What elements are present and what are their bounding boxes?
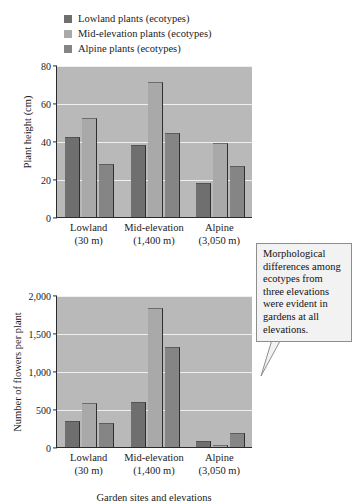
bar: [230, 166, 245, 217]
x-axis-group-elevation: (3,050 m): [187, 465, 252, 478]
y-axis-label-bottom: Number of flowers per plant: [12, 292, 23, 452]
y-axis-tick-label: 40: [41, 137, 51, 148]
x-axis-group-label: Mid-elevation(1,400 m): [121, 222, 186, 247]
x-axis-group-label: Alpine(3,050 m): [187, 222, 252, 247]
bar: [99, 164, 114, 217]
bar: [148, 82, 163, 217]
legend-swatch-icon: [64, 45, 72, 53]
x-axis-group-name: Alpine: [187, 222, 252, 235]
legend-item-label: Alpine plants (ecotypes): [78, 43, 181, 55]
legend-swatch-icon: [64, 30, 72, 38]
y-axis-tick-label: 60: [41, 99, 51, 110]
x-axis-group-elevation: (30 m): [56, 235, 121, 248]
bar: [131, 402, 146, 447]
bar: [230, 433, 245, 447]
y-axis-tick-label: 0: [46, 213, 51, 224]
plot-area-top: 020406080: [56, 66, 252, 218]
x-axis-group-label: Mid-elevation(1,400 m): [121, 452, 186, 477]
x-axis-groups-bottom: Lowland(30 m)Mid-elevation(1,400 m)Alpin…: [56, 452, 252, 486]
bar: [82, 403, 97, 447]
bar: [213, 143, 228, 217]
bar: [65, 137, 80, 217]
legend-item: Lowland plants (ecotypes): [64, 12, 274, 26]
chart-legend: Lowland plants (ecotypes)Mid-elevation p…: [64, 12, 274, 57]
y-axis-tick-label: 2,000: [29, 291, 52, 302]
y-axis-tick-label: 1,500: [29, 329, 52, 340]
bar: [82, 118, 97, 217]
bars-top: [57, 66, 252, 217]
bar: [165, 133, 180, 217]
bar: [148, 308, 163, 447]
bar: [196, 183, 211, 217]
x-axis-group-elevation: (3,050 m): [187, 235, 252, 248]
bar: [196, 441, 211, 447]
bars-bottom: [57, 296, 252, 447]
y-axis-label-top: Plant height (cm): [22, 52, 33, 212]
bar: [131, 145, 146, 217]
x-axis-group-name: Mid-elevation: [121, 452, 186, 465]
y-axis-tick-label: 0: [46, 443, 51, 454]
x-axis-group-name: Lowland: [56, 222, 121, 235]
legend-item-label: Mid-elevation plants (ecotypes): [78, 28, 212, 40]
x-axis-group-elevation: (1,400 m): [121, 235, 186, 248]
y-axis-tick-label: 500: [36, 405, 51, 416]
x-axis-group-elevation: (30 m): [56, 465, 121, 478]
legend-swatch-icon: [64, 15, 72, 23]
y-axis-tick-label: 80: [41, 61, 51, 72]
y-axis-tick-mark: [53, 447, 57, 448]
bar: [65, 421, 80, 447]
legend-item-label: Lowland plants (ecotypes): [78, 13, 189, 25]
x-axis-title: Garden sites and elevations: [56, 492, 252, 503]
x-axis-groups-top: Lowland(30 m)Mid-elevation(1,400 m)Alpin…: [56, 222, 252, 256]
legend-item: Alpine plants (ecotypes): [64, 42, 274, 56]
x-axis-group-name: Lowland: [56, 452, 121, 465]
chart-flower-number: Number of flowers per plant 05001,0001,5…: [0, 292, 270, 504]
x-axis-group-name: Alpine: [187, 452, 252, 465]
plot-background-bottom: 05001,0001,5002,000: [56, 296, 252, 448]
y-axis-tick-label: 20: [41, 175, 51, 186]
x-axis-group-label: Lowland(30 m): [56, 452, 121, 477]
bar: [99, 423, 114, 447]
plot-background-top: 020406080: [56, 66, 252, 218]
x-axis-group-label: Lowland(30 m): [56, 222, 121, 247]
y-axis-tick-label: 1,000: [29, 367, 52, 378]
plot-area-bottom: 05001,0001,5002,000: [56, 296, 252, 448]
chart-plant-height: Plant height (cm) 020406080 Lowland(30 m…: [0, 62, 270, 262]
x-axis-group-label: Alpine(3,050 m): [187, 452, 252, 477]
y-axis-tick-mark: [53, 217, 57, 218]
bar: [213, 445, 228, 447]
x-axis-group-name: Mid-elevation: [121, 222, 186, 235]
x-axis-group-elevation: (1,400 m): [121, 465, 186, 478]
bar: [165, 347, 180, 447]
callout-note: Morphological differences among ecotypes…: [256, 243, 352, 342]
legend-item: Mid-elevation plants (ecotypes): [64, 27, 274, 41]
